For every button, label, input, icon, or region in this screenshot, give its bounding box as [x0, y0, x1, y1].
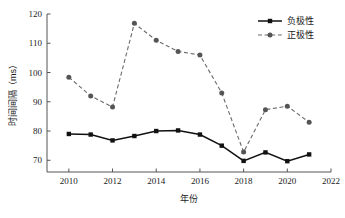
y-axis-title: 时间间隔（ms） — [7, 60, 18, 126]
x-tick-label: 2012 — [104, 176, 122, 186]
data-point-negative — [132, 134, 136, 138]
data-point-negative — [176, 128, 180, 132]
data-point-positive — [285, 104, 290, 109]
legend-swatch-negative-marker — [268, 19, 272, 23]
x-tick-label: 2016 — [191, 176, 210, 186]
data-point-positive — [263, 107, 268, 112]
data-point-positive — [219, 91, 224, 96]
data-point-positive — [66, 75, 71, 80]
data-point-positive — [132, 21, 137, 26]
data-point-negative — [263, 150, 267, 154]
y-tick-label: 90 — [33, 97, 43, 107]
x-tick-label: 2010 — [60, 176, 79, 186]
data-point-positive — [110, 105, 115, 110]
legend-label-positive: 正极性 — [287, 29, 314, 40]
data-point-negative — [241, 159, 245, 163]
y-tick-label: 100 — [29, 68, 43, 78]
y-tick-label: 120 — [29, 9, 43, 19]
data-point-negative — [285, 159, 289, 163]
data-point-negative — [67, 132, 71, 136]
x-axis-title: 年份 — [180, 193, 198, 204]
data-point-positive — [197, 52, 202, 57]
legend-label-negative: 负极性 — [287, 15, 314, 26]
x-tick-label: 2022 — [322, 176, 340, 186]
data-point-negative — [110, 138, 114, 142]
data-point-negative — [198, 132, 202, 136]
y-tick-label: 80 — [33, 126, 43, 136]
data-point-positive — [307, 120, 312, 125]
data-point-positive — [154, 38, 159, 43]
y-tick-label: 70 — [33, 155, 43, 165]
data-point-positive — [88, 93, 93, 98]
data-point-negative — [88, 132, 92, 136]
data-point-positive — [241, 150, 246, 155]
x-tick-label: 2020 — [278, 176, 297, 186]
data-point-negative — [307, 152, 311, 156]
data-point-negative — [154, 129, 158, 133]
x-tick-label: 2018 — [235, 176, 254, 186]
data-point-negative — [220, 143, 224, 147]
data-point-positive — [176, 49, 181, 54]
legend-swatch-positive-marker — [268, 33, 273, 38]
x-tick-label: 2014 — [147, 176, 166, 186]
line-chart: 708090100110120 201020122014201620182020… — [0, 0, 345, 218]
y-tick-label: 110 — [29, 38, 43, 48]
